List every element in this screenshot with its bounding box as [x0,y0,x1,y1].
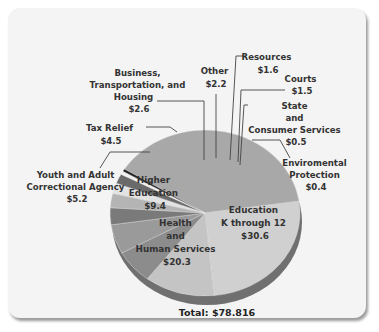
slice-health-and-human-services [205,201,300,295]
total-label: Total: $78.816 [179,307,256,318]
label-business: Business, Transportation, and Housing $2… [90,68,189,114]
label-tax-relief: Tax Relief $4.5 [86,123,136,146]
label-resources: Resources $1.6 [242,52,295,75]
pie-chart: Business, Transportation, and Housing $2… [0,0,379,332]
label-other: Other $2.2 [201,66,232,89]
label-courts: Courts $1.5 [285,74,320,96]
